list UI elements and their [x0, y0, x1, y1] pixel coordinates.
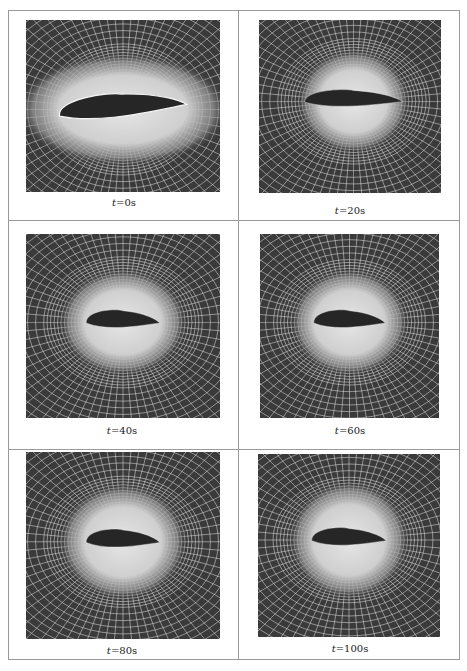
column-divider	[238, 10, 239, 660]
row-divider-1	[8, 220, 460, 221]
time-value: =60s	[339, 425, 365, 436]
row-divider-2	[8, 449, 460, 450]
mesh-image-t80	[26, 452, 220, 639]
time-value: =0s	[116, 197, 136, 208]
mesh-image-t100	[258, 454, 440, 637]
time-value: =100s	[336, 643, 369, 654]
time-value: =80s	[111, 645, 137, 656]
caption-t80: t=80s	[107, 645, 137, 656]
mesh-image-t40	[26, 234, 220, 418]
mesh-image-t60	[260, 234, 439, 418]
caption-t40: t=40s	[107, 425, 137, 436]
caption-t0: t=0s	[112, 197, 136, 208]
caption-t60: t=60s	[335, 425, 365, 436]
caption-t100: t=100s	[332, 643, 369, 654]
mesh-image-t0	[26, 20, 220, 192]
time-value: =40s	[111, 425, 137, 436]
time-value: =20s	[339, 205, 365, 216]
mesh-image-t20	[259, 20, 441, 193]
caption-t20: t=20s	[335, 205, 365, 216]
